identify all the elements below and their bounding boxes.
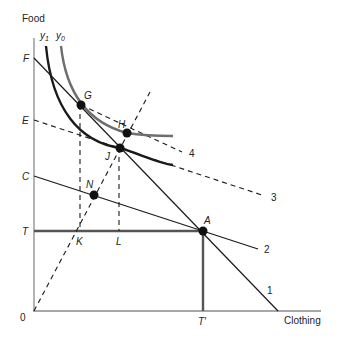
label-e: E bbox=[22, 115, 29, 126]
origin-label: 0 bbox=[20, 312, 26, 323]
line-label-1: 1 bbox=[267, 285, 273, 296]
point-g bbox=[77, 101, 86, 110]
line-label-3: 3 bbox=[271, 192, 277, 203]
label-n: N bbox=[86, 179, 94, 190]
trade-diagram: Food Clothing 0 y1 y0 F E C T K L T′ G H… bbox=[0, 0, 339, 344]
line-label-4: 4 bbox=[189, 148, 195, 159]
label-a: A bbox=[203, 215, 211, 226]
label-c: C bbox=[22, 171, 30, 182]
label-t-prime: T′ bbox=[198, 316, 207, 327]
label-j: J bbox=[104, 151, 111, 162]
label-l: L bbox=[116, 236, 122, 247]
y-axis-label: Food bbox=[22, 13, 45, 24]
label-t: T bbox=[22, 226, 29, 237]
line-label-2: 2 bbox=[264, 244, 270, 255]
indifference-curve-y0 bbox=[61, 46, 173, 136]
label-k: K bbox=[76, 236, 84, 247]
point-n bbox=[90, 191, 99, 200]
label-g: G bbox=[84, 90, 92, 101]
label-h: H bbox=[118, 119, 126, 130]
point-j bbox=[116, 144, 125, 153]
point-a bbox=[199, 227, 208, 236]
label-f: F bbox=[23, 53, 30, 64]
curve-label-y1: y1 bbox=[39, 30, 49, 42]
price-line-2 bbox=[34, 176, 258, 249]
origin-ray bbox=[34, 92, 150, 311]
price-line-4 bbox=[81, 105, 182, 152]
curve-label-y0: y0 bbox=[55, 30, 65, 42]
x-axis-label: Clothing bbox=[284, 315, 321, 326]
price-line-1 bbox=[34, 58, 278, 311]
